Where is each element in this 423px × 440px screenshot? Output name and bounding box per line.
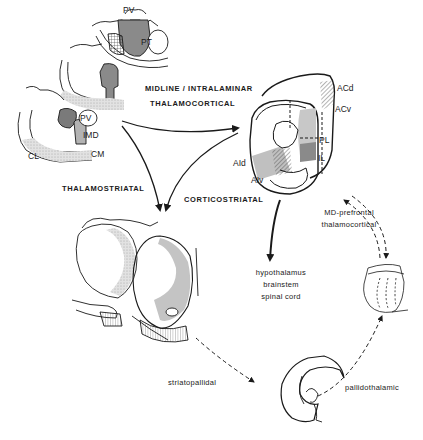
label-il: IL [318, 153, 325, 163]
thalamocortical-arrow [122, 121, 238, 132]
pathway-md-prefrontal: MD-prefrontal thalamocortical [304, 208, 394, 229]
label-aiv: AIv [251, 175, 263, 185]
label-pt: PT [141, 37, 152, 47]
label-aid: AId [233, 158, 246, 168]
label-cl: CL [28, 151, 39, 161]
label-acv: ACv [335, 104, 351, 114]
md-line1: MD-prefrontal [304, 208, 394, 217]
striatopallidal-arrow [196, 338, 254, 382]
pathway-midline-line1: MIDLINE / INTRALAMINAR [145, 84, 253, 93]
pathway-striatopallidal: striatopallidal [168, 378, 216, 387]
pathway-arrows [122, 121, 280, 260]
thalamostriatal-arrow [122, 126, 160, 210]
md-line2: thalamocortical [304, 220, 394, 229]
label-imd: IMD [83, 130, 99, 140]
target-hypothalamus: hypothalamus [236, 268, 326, 277]
label-cm: CM [91, 149, 104, 159]
label-pv-bottom: PV [80, 113, 91, 123]
pathway-midline-line2: THALAMOCORTICAL [150, 99, 235, 108]
target-spinal-cord: spinal cord [236, 292, 326, 301]
md-thalamus-section [364, 264, 408, 312]
label-pl: PL [319, 135, 329, 145]
descending-targets: hypothalamus brainstem spinal cord [236, 268, 326, 301]
label-pv-top: PV [123, 5, 134, 15]
target-brainstem: brainstem [236, 280, 326, 289]
pallidum-section [281, 356, 344, 422]
striatum-sections [72, 218, 198, 342]
pathway-corticostriatal: CORTICOSTRIATAL [184, 195, 264, 204]
pathway-pallidothalamic: pallidothalamic [345, 383, 399, 392]
pathway-thalamostriatal: THALAMOSTRIATAL [62, 184, 144, 193]
circuit-diagram: PV PT PV IMD CL CM ACd ACv PL IL AId AIv… [0, 0, 423, 440]
label-acd: ACd [337, 83, 354, 93]
descending-arrow [270, 200, 280, 260]
